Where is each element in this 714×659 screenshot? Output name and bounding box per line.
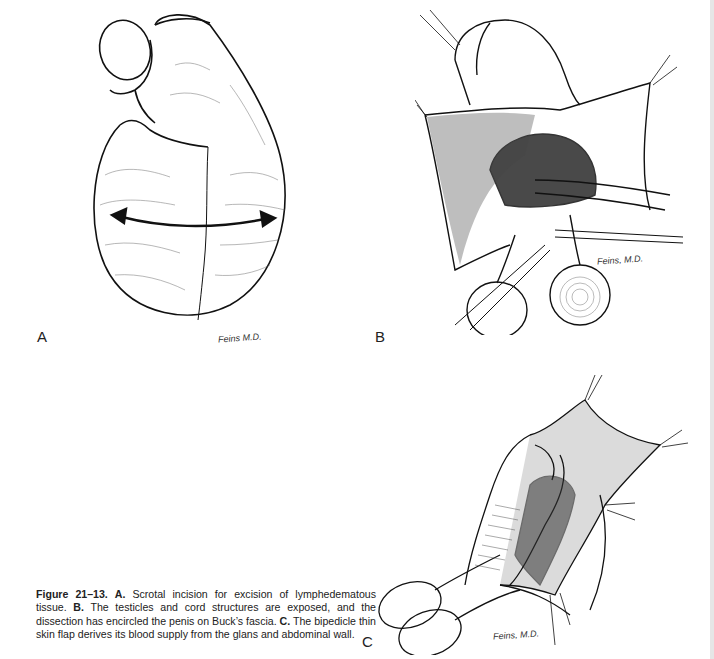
caption-b-label: B. (73, 601, 84, 613)
panel-b-label: B (375, 328, 385, 345)
panel-c-illustration (370, 375, 690, 655)
panel-a-illustration (80, 5, 300, 325)
scrotal-incision-drawing (80, 5, 300, 325)
panel-a-signature: Feins M.D. (218, 331, 262, 344)
figure-number: Figure 21–13. (36, 588, 108, 600)
panel-a-label: A (37, 328, 47, 345)
bipedicle-flap-drawing (370, 375, 690, 655)
caption-c-label: C. (280, 615, 291, 627)
figure-caption: Figure 21–13. A. Scrotal incision for ex… (36, 588, 376, 641)
testicles-exposed-drawing (415, 5, 685, 335)
panel-b-illustration (415, 5, 685, 335)
page-edge-shadow (710, 0, 714, 659)
caption-a-label: A. (115, 588, 126, 600)
